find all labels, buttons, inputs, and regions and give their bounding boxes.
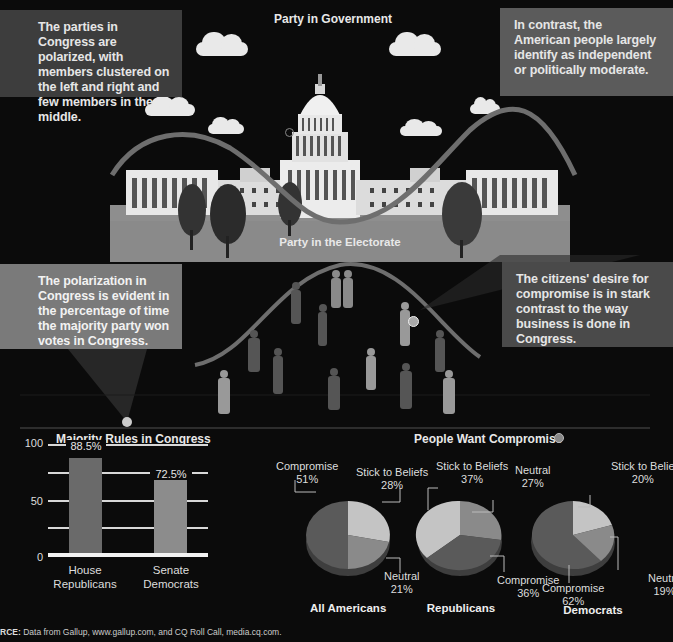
- pie3-label-stick: Stick to Belie 20%: [611, 460, 673, 486]
- pie1-label-compromise: Compromise 51%: [276, 460, 338, 486]
- pie-republicans: [416, 488, 504, 576]
- pie2-label-neutral: Neutral 27%: [515, 464, 550, 490]
- callout-mid-right: The citizens' desire for compromise is i…: [502, 262, 673, 347]
- marker-dot: [408, 316, 419, 327]
- pie1-label-neutral: Neutral 21%: [384, 570, 419, 596]
- y-tick-0: 0: [21, 551, 43, 563]
- bar-chart: Majority Rules in Congress 100 50 0 88.5…: [0, 430, 240, 620]
- category-label-house: House Republicans: [50, 563, 120, 591]
- x-axis: [48, 553, 208, 557]
- pie2-label-stick: Stick to Beliefs 37%: [436, 460, 508, 486]
- party-in-electorate-title: Party in the Electorate: [275, 236, 405, 248]
- value-label-senate: 72.5%: [150, 468, 192, 480]
- callout-top-left: The parties in Congress are polarized, w…: [0, 10, 182, 97]
- source-note: RCE: Data from Gallup, www.gallup.com, a…: [0, 627, 282, 637]
- illustration: Party in Government: [0, 0, 673, 430]
- pie2-title: Republicans: [426, 602, 496, 614]
- bar-senate-democrats: [154, 476, 187, 554]
- marker-dot: [285, 128, 294, 137]
- bar-house-republicans: [69, 458, 102, 554]
- marker-dot: [122, 417, 132, 427]
- value-label-house: 88.5%: [66, 440, 106, 452]
- y-tick-100: 100: [21, 437, 43, 449]
- callout-top-right: In contrast, the American people largely…: [500, 8, 673, 96]
- pie-democrats: [531, 495, 618, 583]
- pie3-label-neutral: Neutra 19%: [648, 572, 673, 598]
- pie-charts: People Want Compromise: [260, 430, 673, 620]
- pie-graphics: [260, 430, 673, 620]
- pie1-title: All Americans: [310, 602, 380, 614]
- y-tick-50: 50: [21, 495, 43, 507]
- pie3-title: Democrats: [558, 604, 628, 616]
- callout-mid-left: The polarization in Congress is evident …: [0, 264, 182, 349]
- people-silhouettes-icon: [200, 268, 480, 418]
- category-label-senate: Senate Democrats: [136, 563, 206, 591]
- pie-all-americans: [295, 480, 400, 576]
- pie1-label-stick: Stick to Beliefs 28%: [356, 466, 428, 492]
